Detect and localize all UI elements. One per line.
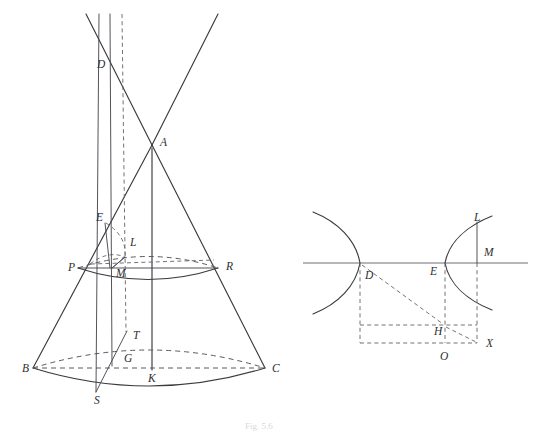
label-E-left: E <box>95 211 103 223</box>
figure-canvas: D A E L P M R T G B K C S <box>0 0 534 435</box>
label-B: B <box>22 362 29 374</box>
dashed-vertical-through-T <box>122 14 126 332</box>
label-T: T <box>133 329 141 341</box>
dashed-diagonal-H-to-X <box>446 327 476 342</box>
label-G: G <box>124 352 133 364</box>
label-O: O <box>440 350 449 362</box>
label-S: S <box>94 394 100 406</box>
cone-generator-upper-right <box>152 14 218 145</box>
cutting-line-right-through-D <box>110 14 112 366</box>
right-figure-group: L M D E H O X <box>303 211 528 362</box>
label-P: P <box>67 261 75 273</box>
label-K: K <box>147 372 157 384</box>
label-X: X <box>485 337 494 349</box>
label-D-right: D <box>364 269 374 281</box>
left-figure-group: D A E L P M R T G B K C S <box>22 14 280 406</box>
figure-caption: Fig. 5.6 <box>245 421 273 431</box>
label-R: R <box>225 260 233 272</box>
line-E-to-M <box>105 223 110 268</box>
arc-E-to-L <box>106 223 125 257</box>
label-A: A <box>159 136 168 148</box>
geometry-diagram-svg: D A E L P M R T G B K C S <box>0 0 534 435</box>
section-circle-front-arc <box>78 268 218 280</box>
label-H: H <box>433 325 443 337</box>
right-figure-labels: L M D E H O X <box>364 211 495 362</box>
label-D-left: D <box>96 58 106 70</box>
label-E-right: E <box>429 265 437 277</box>
label-M-right: M <box>483 246 495 258</box>
label-M-left: M <box>115 267 127 279</box>
base-circle-back-arc <box>33 350 265 368</box>
left-figure-labels: D A E L P M R T G B K C S <box>22 58 280 406</box>
cone-generator-lower-right-AC <box>152 145 265 368</box>
label-L-left: L <box>129 236 136 248</box>
label-C: C <box>272 362 280 374</box>
cone-generator-upper-left <box>86 14 152 145</box>
label-L-right: L <box>473 211 480 223</box>
cutting-line-left-through-D <box>96 14 99 392</box>
